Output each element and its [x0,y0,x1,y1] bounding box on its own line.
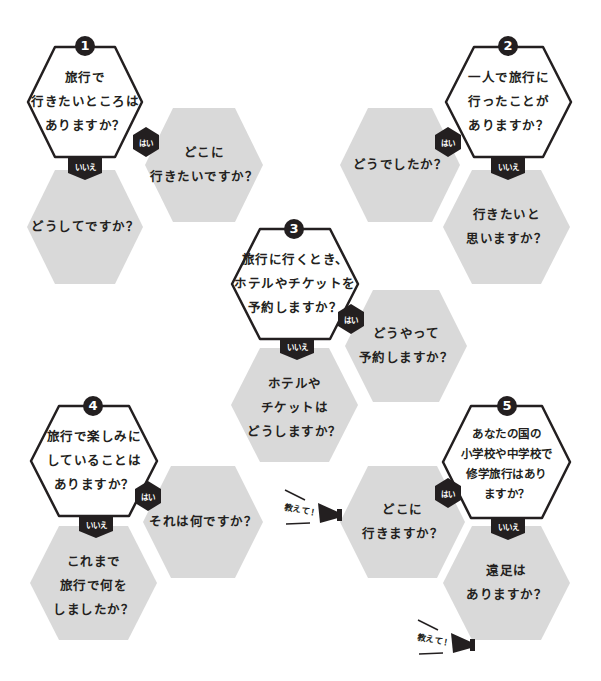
q1-no-tag: いいえ [68,158,102,180]
q4-no-line-2: 旅行で何を [60,574,128,598]
q4-line-2: していることは [47,449,142,473]
q3-line-1: 旅行に行くとき、 [242,248,349,272]
q3-yes-line-1: どうやって [373,322,440,346]
q1-yes-line-1: どこに [184,141,225,165]
q4-yes-tag: はい [135,481,161,511]
q3-yes-label: はい [338,314,364,325]
q5-no-line-2: ありますか？ [466,583,547,607]
q5-question-hex: あなたの国の小学校や中学校で修学旅行はありますか？ [442,405,571,519]
q2-no-followup-hex: 行きたいと思いますか？ [443,170,570,284]
q4-number-badge: 4 [83,396,103,416]
q1-yes-followup-hex: どこに行きたいですか？ [145,108,263,222]
q2-line-1: 一人で旅行に [468,66,549,90]
q3-yes-line-2: 予約しますか？ [359,346,454,370]
q2-no-tag: いいえ [491,158,525,180]
q1-question-hex: 旅行で行きたいところはありますか？ [27,46,143,158]
q2-question-hex: 一人で旅行に行ったことがありますか？ [445,46,572,158]
q2-no-line-2: 思いますか？ [466,227,547,251]
q1-line-3: ありますか？ [45,114,126,138]
q5-no-tag: いいえ [491,518,525,540]
q2-line-3: ありますか？ [468,114,549,138]
q5-number-badge: 5 [497,396,517,416]
q4-yes-label: はい [135,491,161,502]
megaphone-callout-2: 教えて！ [405,615,485,660]
q3-no-label: いいえ [280,341,314,352]
q1-line-2: 行きたいところは [31,90,139,114]
q4-line-1: 旅行で楽しみに [47,425,142,449]
q5-line-3: 修学旅行はあり [466,464,547,484]
q3-no-line-2: チケットは [261,396,329,420]
q4-line-3: ありますか？ [54,473,135,497]
q3-no-followup-hex: ホテルやチケットはどうしますか？ [231,348,358,462]
q2-no-label: いいえ [491,161,525,172]
q1-no-label: いいえ [68,161,102,172]
q1-yes-label: はい [133,137,159,148]
q1-number-badge: 1 [75,36,95,56]
q4-no-line-3: しましたか？ [53,598,134,622]
q2-yes-tag: はい [435,127,461,157]
q2-line-2: 行ったことが [468,90,549,114]
q5-line-2: 小学校や中学校で [461,444,553,464]
q4-yes-line-1: それは何ですか？ [149,510,257,534]
q4-no-followup-hex: これまで旅行で何をしましたか？ [30,526,157,640]
q3-yes-tag: はい [338,304,364,334]
q5-line-1: あなたの国の [472,424,541,444]
q3-no-line-1: ホテルや [268,372,322,396]
q2-yes-line-1: どうでしたか？ [353,153,448,177]
q5-line-4: ますか？ [484,484,530,504]
q3-no-tag: いいえ [280,338,314,360]
megaphone-callout-1: 教えて！ [272,485,352,530]
q1-yes-tag: はい [133,127,159,157]
q4-yes-followup-hex: それは何ですか？ [143,466,263,578]
q5-yes-line-1: どこに [382,498,423,522]
q5-no-label: いいえ [491,521,525,532]
q3-line-2: ホテルやチケットを [234,272,356,296]
q1-yes-line-2: 行きたいですか？ [150,165,258,189]
q3-number-badge: 3 [284,219,304,239]
q2-yes-label: はい [435,137,461,148]
q4-no-tag: いいえ [79,516,113,538]
q4-no-label: いいえ [79,519,113,530]
q3-no-line-3: どうしますか？ [247,420,342,444]
q5-yes-label: はい [435,488,461,499]
q1-no-line-1: どうしてですか？ [31,215,139,239]
q4-no-line-1: これまで [67,550,121,574]
q5-no-line-1: 遠足は [486,559,527,583]
q3-line-3: 予約しますか？ [248,296,343,320]
q1-line-1: 旅行で [65,66,106,90]
q5-yes-line-2: 行きますか？ [362,522,443,546]
q1-no-followup-hex: どうしてですか？ [27,170,143,284]
q2-number-badge: 2 [498,36,518,56]
q2-no-line-1: 行きたいと [473,203,541,227]
q5-yes-tag: はい [435,478,461,508]
q2-yes-followup-hex: どうでしたか？ [340,108,460,222]
